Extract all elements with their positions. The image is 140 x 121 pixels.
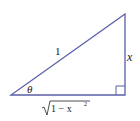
- radicand: 1 − x: [51, 103, 72, 114]
- adjacent-side-label: 1 − x 2: [42, 101, 90, 115]
- hypotenuse-label: 1: [55, 45, 61, 57]
- exponent: 2: [84, 101, 87, 107]
- angle-theta-label: θ: [27, 83, 33, 95]
- opposite-side-label: x: [126, 50, 133, 64]
- right-triangle-diagram: 1 x θ 1 − x 2: [0, 0, 140, 121]
- right-angle-marker: [116, 86, 125, 95]
